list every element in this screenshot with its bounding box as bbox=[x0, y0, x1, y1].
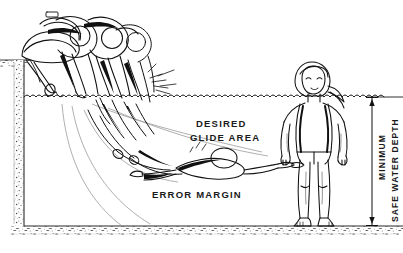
label-safe-water-depth: SAFE WATER DEPTH bbox=[391, 118, 400, 222]
underwater-diver bbox=[88, 98, 182, 174]
water-surface bbox=[24, 95, 403, 97]
label-error-margin: ERROR MARGIN bbox=[152, 190, 242, 200]
label-minimum: MINIMUM bbox=[378, 134, 387, 180]
standing-swimmer bbox=[281, 62, 347, 226]
label-glide-area: GLIDE AREA bbox=[190, 133, 260, 143]
pool-floor bbox=[10, 226, 403, 235]
label-desired: DESIRED bbox=[196, 119, 247, 129]
pool-wall bbox=[14, 60, 24, 228]
diver-motion-sequence bbox=[22, 12, 176, 102]
pool-structure bbox=[0, 59, 403, 235]
diving-depth-diagram: DESIRED GLIDE AREA ERROR MARGIN MINIMUM … bbox=[0, 0, 403, 253]
